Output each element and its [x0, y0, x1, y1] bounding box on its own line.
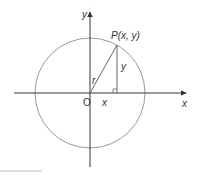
horizontal-leg-label: x — [101, 97, 108, 108]
origin-label: O — [83, 97, 91, 108]
x-axis-label: x — [181, 98, 188, 109]
right-angle-marker — [113, 89, 117, 93]
y-axis-label: y — [81, 9, 88, 20]
unit-circle-diagram: y x P(x, y) y r O x — [0, 0, 197, 175]
point-p-label: P(x, y) — [111, 30, 140, 41]
vertical-leg-label: y — [120, 61, 127, 72]
